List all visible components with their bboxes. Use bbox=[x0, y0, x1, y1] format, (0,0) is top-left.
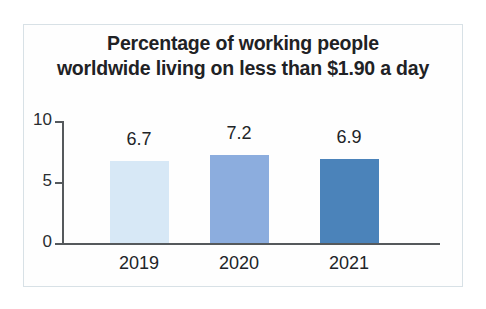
bar-value-label-2021: 6.9 bbox=[314, 127, 384, 148]
y-axis-line bbox=[62, 121, 64, 244]
category-label-2021: 2021 bbox=[309, 253, 389, 274]
bar-value-label-2020: 7.2 bbox=[204, 123, 274, 144]
category-label-2019: 2019 bbox=[99, 253, 179, 274]
bar-value-label-2019: 6.7 bbox=[104, 129, 174, 150]
category-label-2020: 2020 bbox=[199, 253, 279, 274]
y-tick-mark-0 bbox=[55, 243, 62, 245]
plot-area: 10 5 0 6.7 7.2 6.9 2019 2020 2021 bbox=[0, 0, 486, 309]
y-tick-label-5: 5 bbox=[18, 171, 52, 191]
chart-screenshot: Percentage of working people worldwide l… bbox=[0, 0, 486, 309]
y-tick-label-10: 10 bbox=[18, 110, 52, 130]
y-tick-mark-5 bbox=[55, 182, 62, 184]
bar-2020 bbox=[210, 155, 269, 243]
bar-2019 bbox=[110, 161, 169, 243]
x-axis-line bbox=[62, 243, 440, 245]
y-tick-label-0: 0 bbox=[18, 232, 52, 252]
y-tick-mark-10 bbox=[55, 121, 62, 123]
bar-2021 bbox=[320, 159, 379, 243]
